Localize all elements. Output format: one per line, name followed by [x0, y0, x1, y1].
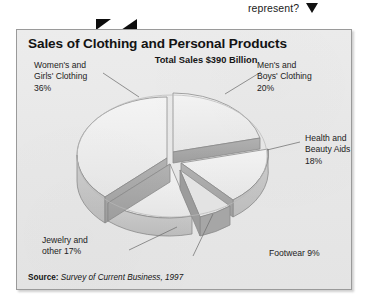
pie-label-jewelry: Jewelry and other 17%: [42, 235, 88, 258]
pie-label-footwear: Footwear 9%: [269, 248, 320, 259]
source-note: Source: Survey of Current Business, 1997: [28, 273, 183, 282]
figure-panel: Sales of Clothing and Personal Products …: [16, 29, 352, 290]
pie-label-womens: Women's and Girls' Clothing 36%: [34, 60, 87, 94]
triangle-down-icon: [306, 3, 318, 13]
source-label: Source:: [28, 273, 58, 282]
page-fragment-text: represent?: [248, 2, 299, 14]
pie-label-mens: Men's and Boys' Clothing 20%: [257, 60, 312, 94]
pie-label-health: Health and Beauty Aids 18%: [305, 133, 350, 167]
source-text: Survey of Current Business, 1997: [61, 273, 183, 282]
chart-title: Sales of Clothing and Personal Products: [28, 36, 287, 51]
page-text-fragment: represent?: [248, 2, 318, 14]
